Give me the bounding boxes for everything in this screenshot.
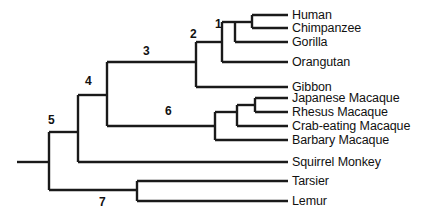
taxon-label-gorilla: Gorilla [292, 36, 327, 49]
taxon-label-rhesus-macaque: Rhesus Macaque [292, 106, 388, 119]
taxon-label-crab-eating-macaque: Crab-eating Macaque [292, 120, 410, 133]
node-number-2: 2 [190, 28, 197, 40]
phylogenetic-tree-figure: HumanChimpanzeeGorillaOrangutanGibbonJap… [0, 0, 426, 224]
taxon-label-squirrel-monkey: Squirrel Monkey [292, 156, 381, 169]
taxon-label-tarsier: Tarsier [292, 175, 329, 188]
node-number-6: 6 [165, 105, 172, 117]
node-number-4: 4 [85, 75, 92, 87]
node-number-3: 3 [143, 45, 150, 57]
taxon-label-orangutan: Orangutan [292, 56, 350, 69]
taxon-label-japanese-macaque: Japanese Macaque [292, 92, 400, 105]
taxon-label-chimpanzee: Chimpanzee [292, 22, 361, 35]
node-number-5: 5 [48, 114, 55, 126]
node-number-7: 7 [99, 196, 106, 208]
branch-group [17, 15, 288, 201]
taxon-label-barbary-macaque: Barbary Macaque [292, 134, 389, 147]
node-number-1: 1 [215, 18, 222, 30]
taxon-label-lemur: Lemur [292, 195, 327, 208]
